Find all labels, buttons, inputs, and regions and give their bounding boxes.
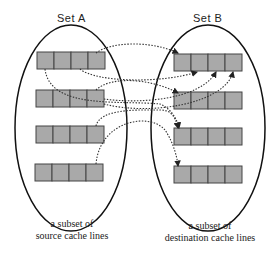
source-cache-line-2 (36, 90, 104, 107)
destination-cache-line-3 (174, 128, 242, 145)
set-b-caption-line1: a subset of (150, 220, 270, 232)
source-cache-line-3 (36, 126, 104, 143)
cache-mapping-diagram (0, 0, 272, 253)
set-b-caption-line2: destination cache lines (150, 232, 270, 244)
source-cache-line-4 (35, 164, 103, 181)
set-a-caption-line1: a subset of (12, 218, 132, 230)
set-b-title: Set B (193, 12, 222, 24)
set-a-caption: a subset of source cache lines (12, 218, 132, 242)
source-cache-line-1 (37, 52, 105, 69)
set-a-title: Set A (57, 12, 86, 24)
set-b-caption: a subset of destination cache lines (150, 220, 270, 244)
destination-cache-line-4 (174, 166, 242, 183)
arrow-src2-dst2 (96, 81, 178, 93)
arrow-src3-dst2 (96, 110, 178, 128)
destination-cache-line-2 (174, 92, 242, 109)
arrow-src4-dst4 (96, 121, 178, 166)
set-a-caption-line2: source cache lines (12, 230, 132, 242)
destination-cache-line-1 (174, 54, 242, 71)
